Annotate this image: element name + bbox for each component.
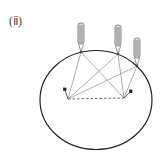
probe-right	[134, 38, 140, 67]
diagram-figure: (ⅱ)	[0, 0, 166, 163]
dashed-baseline	[68, 98, 124, 99]
figure-label: (ⅱ)	[9, 14, 22, 28]
probe-left	[78, 23, 84, 53]
ellipse-boundary	[40, 51, 152, 150]
probe-middle	[115, 25, 121, 55]
